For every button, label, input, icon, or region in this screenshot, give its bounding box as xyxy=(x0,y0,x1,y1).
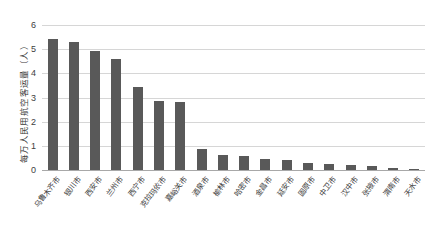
bar xyxy=(367,166,377,170)
bar-slot xyxy=(42,25,63,170)
x-tick-label: 延安市 xyxy=(273,174,295,198)
x-label-slot: 银川市 xyxy=(63,172,84,238)
x-tick-label: 汉中市 xyxy=(337,174,359,198)
x-label-slot: 渭南市 xyxy=(383,172,404,238)
bar xyxy=(133,87,143,170)
bar-slot xyxy=(170,25,191,170)
bar-slot xyxy=(106,25,127,170)
x-label-slot: 固原市 xyxy=(297,172,318,238)
y-tick-label: 6 xyxy=(16,20,36,30)
bar xyxy=(409,169,419,170)
bar xyxy=(111,59,121,170)
bar-slot xyxy=(340,25,361,170)
bar xyxy=(388,168,398,170)
x-label-slot: 延安市 xyxy=(276,172,297,238)
x-tick-label: 哈密市 xyxy=(231,174,253,198)
bar xyxy=(324,164,334,170)
x-label-slot: 兰州市 xyxy=(106,172,127,238)
x-tick-label: 张掖市 xyxy=(359,174,381,198)
x-label-slot: 榆林市 xyxy=(212,172,233,238)
y-tick-label: 1 xyxy=(16,141,36,151)
x-tick-label: 银川市 xyxy=(61,174,83,198)
bar-slot xyxy=(319,25,340,170)
bar-chart: 每万人民用航空客运量（人） 0123456 乌鲁木齐市银川市西安市兰州市西宁市克… xyxy=(0,0,443,240)
bar-slot xyxy=(234,25,255,170)
bar xyxy=(69,42,79,170)
bar-slot xyxy=(383,25,404,170)
bar-slot xyxy=(63,25,84,170)
bar xyxy=(197,149,207,170)
bar xyxy=(175,102,185,170)
x-label-slot: 嘉峪关市 xyxy=(170,172,191,238)
bar-slot xyxy=(127,25,148,170)
x-label-slot: 金昌市 xyxy=(255,172,276,238)
x-label-slot: 张掖市 xyxy=(361,172,382,238)
x-tick-label: 金昌市 xyxy=(252,174,274,198)
x-tick-label: 西安市 xyxy=(82,174,104,198)
x-label-slot: 汉中市 xyxy=(340,172,361,238)
bar-series xyxy=(42,25,425,170)
bar-slot xyxy=(212,25,233,170)
x-tick-label: 固原市 xyxy=(295,174,317,198)
bar xyxy=(303,163,313,170)
bar xyxy=(48,39,58,170)
x-tick-label: 乌鲁木齐市 xyxy=(30,174,61,209)
bar xyxy=(282,160,292,170)
x-tick-label: 兰州市 xyxy=(103,174,125,198)
x-axis-labels: 乌鲁木齐市银川市西安市兰州市西宁市克拉玛依市嘉峪关市酒泉市榆林市哈密市金昌市延安… xyxy=(42,172,425,238)
bar-slot xyxy=(361,25,382,170)
x-label-slot: 乌鲁木齐市 xyxy=(42,172,63,238)
y-tick-label: 5 xyxy=(16,44,36,54)
x-tick-label: 渭南市 xyxy=(380,174,402,198)
x-tick-label: 酒泉市 xyxy=(188,174,210,198)
x-label-slot: 酒泉市 xyxy=(191,172,212,238)
x-label-slot: 天水市 xyxy=(404,172,425,238)
x-label-slot: 中卫市 xyxy=(319,172,340,238)
x-tick-label: 中卫市 xyxy=(316,174,338,198)
bar xyxy=(154,101,164,170)
x-tick-label: 榆林市 xyxy=(210,174,232,198)
x-label-slot: 克拉玛依市 xyxy=(148,172,169,238)
bar xyxy=(218,155,228,170)
bar-slot xyxy=(255,25,276,170)
bar xyxy=(260,159,270,170)
bar-slot xyxy=(276,25,297,170)
x-tick-label: 天水市 xyxy=(401,174,423,198)
x-label-slot: 哈密市 xyxy=(234,172,255,238)
y-tick-label: 2 xyxy=(16,117,36,127)
bar-slot xyxy=(191,25,212,170)
y-tick-label: 4 xyxy=(16,68,36,78)
gridline-row: 0 xyxy=(42,170,425,171)
y-tick-label: 3 xyxy=(16,93,36,103)
y-tick-label: 0 xyxy=(16,165,36,175)
bar-slot xyxy=(404,25,425,170)
bar xyxy=(346,165,356,170)
x-label-slot: 西安市 xyxy=(85,172,106,238)
axis-baseline xyxy=(42,170,425,171)
bar-slot xyxy=(148,25,169,170)
bar-slot xyxy=(297,25,318,170)
bar xyxy=(90,51,100,170)
plot-area: 0123456 xyxy=(42,25,425,170)
bar xyxy=(239,156,249,170)
bar-slot xyxy=(85,25,106,170)
